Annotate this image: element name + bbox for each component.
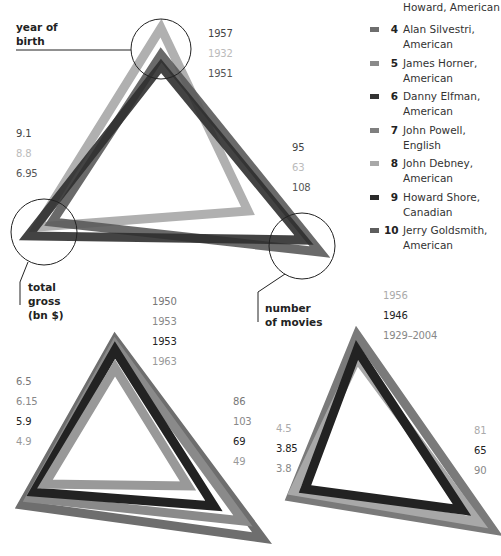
- chart2-movies-2: 103: [233, 416, 252, 428]
- chart3-gross-2: 3.85: [276, 443, 297, 455]
- chart3-gross-3: 3.8: [276, 463, 291, 475]
- year-title-line1: year of: [16, 20, 58, 34]
- chart2-gross-2: 6.15: [16, 396, 37, 408]
- legend-item-10: 10 Jerry Goldsmith,American: [368, 223, 501, 255]
- chart1-year-1: 1957: [208, 28, 233, 40]
- chart2-gross-4: 4.9: [16, 436, 31, 448]
- legend-item-4: 4 Alan Silvestri,American: [368, 22, 501, 54]
- chart3-year-2: 1946: [383, 310, 408, 322]
- chart2-year-2: 1953: [152, 316, 177, 328]
- chart3-movies-3: 90: [474, 465, 486, 477]
- chart2-year-1: 1950: [152, 296, 177, 308]
- legend-rank: 4: [384, 22, 398, 37]
- chart3-movies-1: 81: [474, 425, 486, 437]
- legend-swatch: [370, 61, 379, 66]
- chart1-gross-1: 9.1: [16, 128, 31, 140]
- legend-swatch: [370, 94, 379, 99]
- chart1-movies-1: 95: [292, 142, 304, 154]
- chart1-movies-2: 63: [292, 162, 304, 174]
- legend-partial-top: Howard, American: [403, 0, 501, 15]
- legend-name: Alan Silvestri,American: [403, 22, 501, 52]
- gross-title-line2: gross: [28, 294, 64, 308]
- chart2-year-4: 1963: [152, 356, 177, 368]
- chart1-movies-3: 108: [292, 182, 311, 194]
- legend-item-8: 8 John Debney,American: [368, 156, 501, 188]
- legend-item-5: 5 James Horner,American: [368, 56, 501, 88]
- legend-swatch: [370, 161, 379, 166]
- chart3-movies-2: 65: [474, 445, 486, 457]
- chart1-gross-3: 6.95: [16, 168, 37, 180]
- legend-name: Howard Shore,Canadian: [403, 190, 501, 220]
- chart2-movies-3: 69: [233, 436, 245, 448]
- legend-rank: 10: [384, 223, 398, 238]
- chart2-gross-1: 6.5: [16, 376, 31, 388]
- chart2-movies-4: 49: [233, 456, 245, 468]
- chart1-year-2: 1932: [208, 48, 233, 60]
- year-title-line2: birth: [16, 34, 58, 48]
- legend-rank: 5: [384, 56, 398, 71]
- legend-swatch: [370, 128, 379, 133]
- legend-name: John Debney,American: [403, 156, 501, 186]
- legend-swatch: [370, 27, 379, 32]
- chart1-gross-2: 8.8: [16, 148, 31, 160]
- movies-title-line2: of movies: [265, 315, 322, 329]
- legend-rank: 9: [384, 190, 398, 205]
- legend-name: Jerry Goldsmith,American: [403, 223, 501, 253]
- legend-name: James Horner,American: [403, 56, 501, 86]
- legend-name: John Powell,English: [403, 123, 501, 153]
- chart-3-triangles: [291, 335, 493, 530]
- legend-item-9: 9 Howard Shore,Canadian: [368, 190, 501, 222]
- legend-swatch: [370, 228, 379, 233]
- legend-rank: 7: [384, 123, 398, 138]
- gross-axis-leader: [20, 262, 28, 305]
- gross-title-line1: total: [28, 280, 64, 294]
- legend-item-6: 6 Danny Elfman,American: [368, 89, 501, 121]
- movies-title-line1: number: [265, 301, 322, 315]
- chart3-gross-1: 4.5: [276, 423, 291, 435]
- number-of-movies-title: number of movies: [265, 301, 322, 329]
- chart2-movies-1: 86: [233, 396, 245, 408]
- legend-rank: 8: [384, 156, 398, 171]
- legend-swatch: [370, 195, 379, 200]
- chart3-year-3: 1929–2004: [383, 330, 437, 342]
- legend-name: Danny Elfman,American: [403, 89, 501, 119]
- chart2-gross-3: 5.9: [16, 416, 31, 428]
- chart-2-triangles: [22, 340, 262, 538]
- legend-item-7: 7 John Powell,English: [368, 123, 501, 155]
- chart1-year-3: 1951: [208, 68, 233, 80]
- total-gross-title: total gross (bn $): [28, 280, 64, 322]
- year-of-birth-title: year of birth: [16, 20, 58, 48]
- chart3-year-1: 1956: [383, 290, 408, 302]
- chart2-year-3: 1953: [152, 336, 177, 348]
- legend-rank: 6: [384, 89, 398, 104]
- gross-title-line3: (bn $): [28, 308, 64, 322]
- chart-1-triangles: [28, 28, 320, 252]
